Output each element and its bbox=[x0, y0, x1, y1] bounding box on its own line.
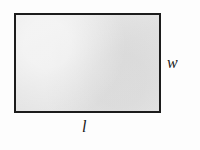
width-label: w bbox=[167, 55, 178, 71]
length-label: l bbox=[82, 119, 86, 135]
rectangle-shape bbox=[14, 13, 161, 113]
figure-canvas: w l bbox=[0, 0, 200, 150]
rectangle-fill bbox=[16, 15, 159, 111]
